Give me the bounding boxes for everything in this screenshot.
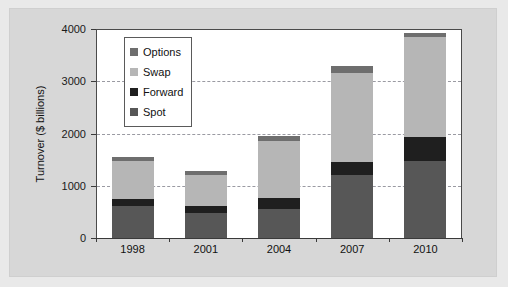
legend-swatch-icon [130,108,138,116]
bar-segment-forward[interactable] [112,199,154,206]
legend-item[interactable]: Forward [130,82,183,102]
legend-label: Swap [143,67,171,78]
stacked-bar[interactable] [258,136,300,238]
x-tick-mark [462,238,463,242]
stacked-bar[interactable] [404,33,446,238]
legend-item[interactable]: Swap [130,62,183,82]
x-tick-label: 1998 [120,238,144,255]
x-tick-mark [242,238,243,242]
bar-group[interactable] [185,171,227,238]
legend-label: Forward [143,87,183,98]
bar-segment-forward[interactable] [185,206,227,213]
x-tick-mark [96,238,97,242]
chart-legend: OptionsSwapForwardSpot [124,37,192,127]
x-tick-mark [169,238,170,242]
legend-label: Options [143,47,181,58]
y-tick-label: 3000 [0,76,86,87]
bar-segment-spot[interactable] [331,175,373,238]
bar-segment-swap[interactable] [112,161,154,199]
bar-group[interactable] [404,33,446,238]
x-tick-label: 2001 [194,238,218,255]
stacked-bar[interactable] [185,171,227,238]
bar-segment-forward[interactable] [331,162,373,175]
y-tick-label: 0 [0,233,86,244]
legend-swatch-icon [130,88,138,96]
bar-group[interactable] [258,136,300,238]
bar-segment-swap[interactable] [404,37,446,136]
legend-item[interactable]: Options [130,42,183,62]
bar-segment-forward[interactable] [404,137,446,161]
legend-item[interactable]: Spot [130,102,183,122]
bar-group[interactable] [331,66,373,238]
bar-segment-spot[interactable] [112,206,154,238]
stacked-bar[interactable] [331,66,373,238]
chart-figure: Turnover ($ billions) 01000200030004000 … [0,0,508,287]
bar-segment-spot[interactable] [404,161,446,238]
y-tick-label: 1000 [0,180,86,191]
bar-segment-swap[interactable] [331,73,373,162]
bar-segment-swap[interactable] [258,141,300,198]
legend-swatch-icon [130,68,138,76]
bar-group[interactable] [112,157,154,239]
y-tick-label: 4000 [0,24,86,35]
x-tick-label: 2004 [267,238,291,255]
y-tick-label: 2000 [0,128,86,139]
x-tick-mark [389,238,390,242]
legend-label: Spot [143,107,166,118]
x-tick-mark [316,238,317,242]
bar-segment-spot[interactable] [258,209,300,238]
x-tick-label: 2010 [413,238,437,255]
bar-segment-spot[interactable] [185,213,227,238]
bar-segment-swap[interactable] [185,175,227,206]
x-tick-label: 2007 [340,238,364,255]
bar-segment-options[interactable] [331,66,373,74]
legend-swatch-icon [130,48,138,56]
stacked-bar[interactable] [112,157,154,239]
bar-segment-forward[interactable] [258,198,300,209]
